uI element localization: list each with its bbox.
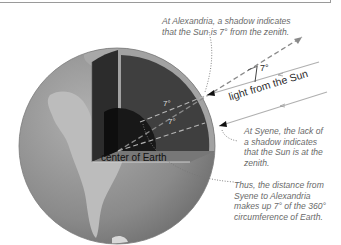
caption-line: Syene to Alexandria	[234, 191, 326, 202]
caption-syene: At Syene, the lack of a shadow indicates…	[244, 126, 323, 168]
caption-line: zenith.	[244, 158, 323, 169]
angle-label-inner-top: 7°	[163, 99, 171, 108]
angle-label-inner-bottom: 7°	[168, 117, 176, 126]
caption-line: that the Sun is 7° from the zenith.	[162, 27, 291, 38]
angle-label-outer: 7°	[260, 63, 269, 73]
caption-line: At Syene, the lack of	[244, 126, 323, 137]
center-of-earth-label: center of Earth	[101, 152, 167, 163]
caption-line: makes up 7° of the 360°	[234, 201, 326, 212]
caption-line: Thus, the distance from	[234, 180, 326, 191]
globe	[19, 46, 217, 244]
caption-conclusion: Thus, the distance from Syene to Alexand…	[234, 180, 326, 222]
caption-line: that the Sun is at the	[244, 147, 323, 158]
caption-line: a shadow indicates	[244, 137, 323, 148]
caption-line: At Alexandria, a shadow indicates	[162, 16, 291, 27]
caption-alexandria: At Alexandria, a shadow indicates that t…	[162, 16, 291, 37]
caption-line: circumference of Earth.	[234, 212, 326, 223]
